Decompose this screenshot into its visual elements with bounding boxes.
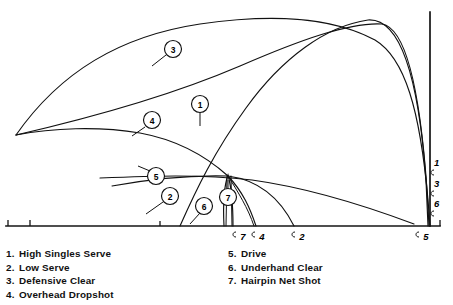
legend-item: 3.Defensive Clear: [6, 274, 221, 288]
callout-leader-5: [138, 166, 150, 171]
curl-leader: [416, 232, 419, 237]
callout-label: 3: [171, 45, 176, 55]
legend-item: 2.Low Serve: [6, 261, 221, 275]
wall-label-3: 3: [431, 178, 440, 196]
legend-label: Hairpin Net Shot: [241, 275, 321, 286]
legend-column-right: 5.Drive 6.Underhand Clear 7.Hairpin Net …: [228, 247, 448, 288]
trajectory-diagram: 3 4 1 5 2 6 7 7: [0, 0, 453, 245]
legend-label: Low Serve: [19, 262, 70, 273]
legend-label: Underhand Clear: [241, 262, 323, 273]
legend: 1.High Singles Serve 2.Low Serve 3.Defen…: [0, 247, 453, 305]
callout-4: 4: [144, 112, 161, 129]
legend-item: 6.Underhand Clear: [228, 261, 448, 275]
callout-label: 1: [198, 100, 203, 110]
floor-label: 2: [298, 231, 305, 242]
curl-leader: [233, 232, 236, 237]
floor-label: 7: [240, 231, 246, 242]
floor-label-2: 2: [292, 231, 305, 242]
floor-label-7: 7: [233, 231, 246, 242]
trajectory-drive: [100, 176, 414, 224]
callout-label: 6: [202, 202, 207, 212]
badminton-trajectory-figure: 3 4 1 5 2 6 7 7: [0, 0, 453, 305]
callout-1: 1: [192, 96, 209, 113]
wall-label: 1: [434, 157, 439, 168]
wall-label-1: 1: [431, 157, 439, 175]
curl-leader: [431, 191, 434, 196]
floor-label: 4: [258, 231, 265, 242]
legend-number: 5.: [228, 247, 241, 261]
callout-label: 5: [154, 172, 159, 182]
wall-label: 6: [434, 198, 440, 209]
curl-leader: [252, 232, 255, 237]
floor-label-5: 5: [416, 231, 429, 242]
legend-item: 5.Drive: [228, 247, 448, 261]
legend-column-left: 1.High Singles Serve 2.Low Serve 3.Defen…: [6, 247, 221, 301]
legend-label: Drive: [241, 248, 266, 259]
wall-label: 3: [434, 178, 440, 189]
legend-number: 6.: [228, 261, 241, 275]
curl-leader: [292, 232, 295, 237]
legend-label: Overhead Dropshot: [19, 289, 114, 300]
legend-number: 4.: [6, 288, 19, 302]
callout-7: 7: [220, 189, 237, 206]
legend-number: 3.: [6, 274, 19, 288]
wall-label-6: 6: [431, 198, 440, 216]
callout-label: 4: [150, 116, 155, 126]
callout-leader-3: [152, 55, 166, 66]
legend-number: 1.: [6, 247, 19, 261]
curl-leader: [431, 170, 434, 175]
legend-label: High Singles Serve: [19, 248, 111, 259]
callout-leader-6: [190, 213, 200, 224]
callout-6: 6: [196, 198, 213, 215]
callout-leader-2: [146, 202, 163, 214]
legend-item: 1.High Singles Serve: [6, 247, 221, 261]
legend-item: 4.Overhead Dropshot: [6, 288, 221, 302]
callout-label: 2: [168, 192, 173, 202]
legend-number: 2.: [6, 261, 19, 275]
callout-3: 3: [165, 41, 182, 58]
callout-2: 2: [162, 188, 179, 205]
callout-5: 5: [148, 168, 165, 185]
floor-label: 5: [423, 231, 429, 242]
legend-label: Defensive Clear: [19, 275, 95, 286]
floor-label-4: 4: [252, 231, 265, 242]
curl-leader: [431, 211, 434, 216]
legend-item: 7.Hairpin Net Shot: [228, 274, 448, 288]
trajectory-underhand-clear: [180, 20, 428, 226]
callout-label: 7: [226, 193, 231, 203]
legend-number: 7.: [228, 274, 241, 288]
